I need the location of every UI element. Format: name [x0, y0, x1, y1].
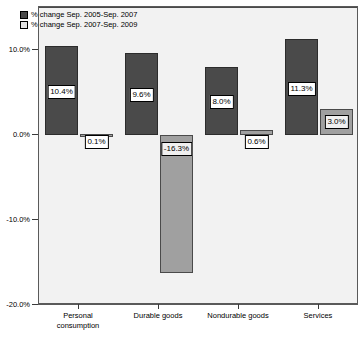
x-category-label: Services [273, 311, 363, 321]
x-tick-mark [158, 304, 159, 309]
data-label: 0.1% [84, 135, 108, 149]
y-tick-mark [32, 219, 38, 220]
legend-item-series2: % change Sep. 2007-Sep. 2009 [20, 20, 137, 30]
bar-chart: 10.4%0.1%9.6%-16.3%8.0%0.6%11.3%3.0% 10.… [0, 0, 364, 354]
data-label: 3.0% [324, 115, 348, 129]
y-tick-label: 0.0% [0, 129, 30, 138]
y-tick-mark [32, 134, 38, 135]
x-axis-line [38, 304, 358, 305]
x-category-label: Durable goods [113, 311, 203, 321]
x-category-label: Personal consumption [33, 311, 123, 330]
data-label: 0.6% [244, 135, 268, 149]
y-tick-label: -20.0% [0, 300, 30, 309]
legend-item-series1: % change Sep. 2005-Sep. 2007 [20, 10, 137, 20]
zero-baseline [39, 7, 357, 8]
y-tick-label: -10.0% [0, 214, 30, 223]
plot-area: 10.4%0.1%9.6%-16.3%8.0%0.6%11.3%3.0% [38, 6, 358, 304]
x-tick-mark [318, 304, 319, 309]
y-tick-label: 10.0% [0, 44, 30, 53]
legend: % change Sep. 2005-Sep. 2007 % change Se… [20, 10, 137, 30]
legend-label-series1: % change Sep. 2005-Sep. 2007 [31, 10, 137, 20]
data-label: 9.6% [129, 88, 153, 102]
legend-label-series2: % change Sep. 2007-Sep. 2009 [31, 20, 137, 30]
y-tick-mark [32, 49, 38, 50]
data-label: -16.3% [161, 142, 192, 156]
light-gray-swatch-icon [20, 21, 28, 29]
data-label: 10.4% [47, 85, 76, 99]
x-tick-mark [78, 304, 79, 309]
data-label: 11.3% [287, 82, 315, 96]
dark-gray-swatch-icon [20, 11, 28, 19]
x-tick-mark [238, 304, 239, 309]
x-category-label: Nondurable goods [193, 311, 283, 321]
data-label: 8.0% [209, 95, 233, 109]
